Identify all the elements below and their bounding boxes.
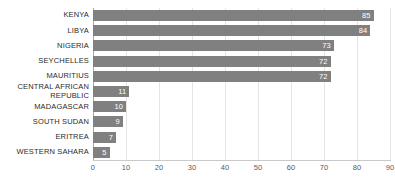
bar-wrapper: 11 [93, 86, 129, 97]
bar-row: SEYCHELLES72 [0, 54, 395, 69]
category-label: MADAGASCAR [0, 103, 89, 111]
bar: 9 [93, 116, 123, 127]
bar-value-label: 85 [362, 10, 371, 21]
x-tick-label: 40 [221, 163, 230, 172]
bar-value-label: 10 [114, 101, 123, 112]
bar-wrapper: 73 [93, 40, 334, 51]
bar-wrapper: 7 [93, 132, 116, 143]
bar-wrapper: 85 [93, 10, 374, 21]
x-tick-label: 30 [188, 163, 197, 172]
category-label: ERITREA [0, 133, 89, 141]
category-label: MAURITIUS [0, 72, 89, 80]
bar-wrapper: 10 [93, 101, 126, 112]
bar-value-label: 7 [109, 132, 113, 143]
bar-wrapper: 84 [93, 25, 370, 36]
category-label: SOUTH SUDAN [0, 118, 89, 126]
x-tick-label: 20 [155, 163, 164, 172]
bar-wrapper: 9 [93, 116, 123, 127]
bar-row: ERITREA7 [0, 130, 395, 145]
bar-rows: KENYA85LIBYA84NIGERIA73SEYCHELLES72MAURI… [0, 8, 395, 160]
bar-value-label: 72 [319, 71, 328, 82]
bar: 7 [93, 132, 116, 143]
bar: 10 [93, 101, 126, 112]
bar: 85 [93, 10, 374, 21]
x-tick-label: 80 [353, 163, 362, 172]
category-label: LIBYA [0, 27, 89, 35]
x-tick-label: 0 [91, 163, 95, 172]
bar: 5 [93, 147, 110, 158]
bar-value-label: 5 [102, 147, 106, 158]
category-label: CENTRAL AFRICAN REPUBLIC [0, 83, 89, 100]
bar-value-label: 9 [115, 116, 119, 127]
bar-value-label: 73 [322, 40, 331, 51]
bar: 72 [93, 56, 331, 67]
x-tick-label: 70 [320, 163, 329, 172]
bar: 73 [93, 40, 334, 51]
bar-row: LIBYA84 [0, 23, 395, 38]
bar-value-label: 72 [319, 56, 328, 67]
bar-wrapper: 5 [93, 147, 110, 158]
bar-row: NIGERIA73 [0, 38, 395, 53]
x-axis-line [93, 160, 391, 161]
bar: 11 [93, 86, 129, 97]
bar-row: KENYA85 [0, 8, 395, 23]
bar-row: SOUTH SUDAN9 [0, 114, 395, 129]
x-tick-label: 50 [254, 163, 263, 172]
bar-wrapper: 72 [93, 56, 331, 67]
bar: 72 [93, 71, 331, 82]
bar-value-label: 84 [359, 25, 368, 36]
category-label: WESTERN SAHARA [0, 148, 89, 156]
bar-row: CENTRAL AFRICAN REPUBLIC11 [0, 84, 395, 99]
bar-wrapper: 72 [93, 71, 331, 82]
category-label: SEYCHELLES [0, 57, 89, 65]
bar-row: MADAGASCAR10 [0, 99, 395, 114]
bar: 84 [93, 25, 370, 36]
x-tick-label: 10 [122, 163, 131, 172]
x-tick-label: 90 [386, 163, 395, 172]
bar-value-label: 11 [118, 86, 126, 97]
category-label: KENYA [0, 11, 89, 19]
bar-row: WESTERN SAHARA5 [0, 145, 395, 160]
category-label: NIGERIA [0, 42, 89, 50]
bar-chart: 0102030405060708090 KENYA85LIBYA84NIGERI… [0, 0, 395, 183]
x-tick-label: 60 [287, 163, 296, 172]
